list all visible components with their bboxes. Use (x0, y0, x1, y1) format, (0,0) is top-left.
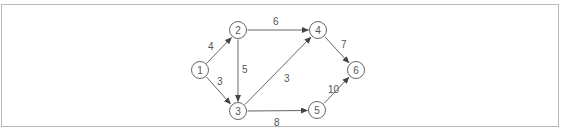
node-3: 3 (230, 103, 247, 120)
node-4-label: 4 (315, 25, 321, 36)
weight-4-6: 7 (341, 39, 347, 50)
weight-3-4: 3 (284, 73, 290, 84)
node-5-label: 5 (314, 105, 320, 116)
weight-3-5: 8 (274, 117, 280, 128)
node-6-label: 6 (353, 65, 359, 76)
weight-5-6: 10 (328, 84, 340, 95)
node-6: 6 (348, 62, 365, 79)
graph-canvas: 4 3 5 6 3 8 7 10 1 2 3 4 5 6 (0, 0, 562, 130)
node-1: 1 (192, 62, 209, 79)
edge-3-5 (248, 111, 308, 112)
weight-2-4: 6 (273, 16, 279, 27)
edges (207, 30, 350, 111)
node-4: 4 (310, 22, 327, 39)
node-1-label: 1 (197, 65, 203, 76)
weight-2-3: 5 (242, 64, 248, 75)
edge-3-4 (245, 37, 311, 105)
node-2-label: 2 (235, 25, 241, 36)
weight-1-2: 4 (208, 41, 214, 52)
weight-1-3: 3 (217, 76, 223, 87)
node-3-label: 3 (235, 106, 241, 117)
node-2: 2 (230, 22, 247, 39)
node-5: 5 (309, 102, 326, 119)
